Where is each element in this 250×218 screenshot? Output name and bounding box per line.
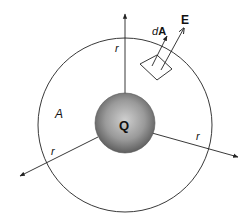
area-vector-symbol: A xyxy=(158,25,166,37)
radius-label-top: r xyxy=(115,42,120,54)
area-vector-arrow xyxy=(152,36,167,66)
area-vector-label: dA xyxy=(152,25,166,37)
radius-arrow-left xyxy=(20,137,98,176)
radius-label-right: r xyxy=(196,130,201,142)
surface-area-label: A xyxy=(54,107,63,121)
charge-label: Q xyxy=(119,118,129,133)
gauss-law-diagram: Q dA E A r r r xyxy=(0,0,250,218)
radius-arrow-right xyxy=(152,133,238,157)
radius-label-left: r xyxy=(51,145,56,157)
field-vector-label: E xyxy=(181,13,189,27)
